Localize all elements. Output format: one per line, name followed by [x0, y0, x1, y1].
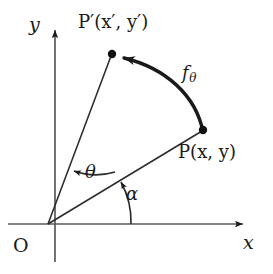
rotation-diagram: y x O P′(x′, y′) P(x, y) θ α fθ [0, 0, 273, 274]
point-label-p: P(x, y) [178, 143, 236, 161]
y-axis-label: y [29, 15, 40, 34]
point-dot-p-prime [108, 50, 116, 58]
diagram-canvas [0, 0, 273, 274]
origin-label: O [13, 236, 29, 255]
rotation-map-base: f [182, 62, 189, 83]
x-axis-label: x [243, 233, 254, 252]
point-dot-p [199, 126, 207, 134]
theta-angle-label: θ [85, 163, 96, 181]
ray-origin-to-p-prime [48, 56, 111, 224]
rotation-map-subscript: θ [189, 71, 196, 85]
point-label-p-prime: P′(x′, y′) [78, 13, 148, 31]
rotation-map-label: fθ [182, 64, 196, 84]
alpha-angle-label: α [126, 185, 138, 203]
